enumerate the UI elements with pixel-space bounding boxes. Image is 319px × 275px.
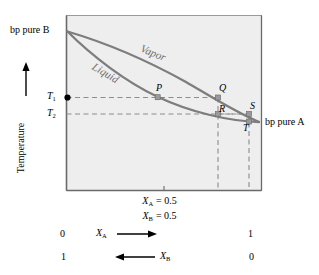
temperature-axis-arrow-icon bbox=[22, 62, 29, 96]
bp-pure-a-label: bp pure A bbox=[265, 117, 304, 127]
midpoint-xb-annotation: XB= 0.5 bbox=[0, 211, 319, 222]
xa-axis-symbol: XA bbox=[96, 228, 107, 239]
midpoint-xa-subscript: A bbox=[148, 200, 153, 207]
midpoint-xa-annotation: XA= 0.5 bbox=[0, 196, 319, 207]
midpoint-xb-subscript: B bbox=[149, 215, 153, 222]
y-tick-T1-subscript: 1 bbox=[53, 95, 56, 102]
phase-diagram-figure: bp pure B bp pure A Temperature Vapor Li… bbox=[0, 0, 319, 275]
xb-left-arrow-icon bbox=[115, 253, 155, 260]
xb-left-value: 1 bbox=[61, 252, 66, 262]
point-label-R: R bbox=[219, 104, 225, 114]
xb-subscript: B bbox=[166, 255, 170, 262]
bp-pure-b-label: bp pure B bbox=[10, 25, 49, 35]
xa-right-value: 1 bbox=[248, 229, 253, 239]
phase-diagram-svg bbox=[0, 0, 319, 275]
midpoint-xb-value: = 0.5 bbox=[156, 210, 177, 221]
xa-right-arrow-icon bbox=[117, 230, 157, 237]
y-axis-dot-T1 bbox=[64, 94, 70, 100]
xa-subscript: A bbox=[102, 232, 107, 239]
y-tick-T2-subscript: 2 bbox=[53, 112, 56, 119]
y-tick-label-T1: T1 bbox=[47, 91, 56, 102]
xb-right-value: 0 bbox=[249, 252, 254, 262]
midpoint-xa-value: = 0.5 bbox=[156, 195, 177, 206]
xb-axis-symbol: XB bbox=[160, 251, 170, 262]
y-axis-title: Temperature bbox=[16, 103, 26, 193]
point-marker-P bbox=[155, 95, 160, 100]
point-label-S: S bbox=[250, 101, 255, 111]
point-marker-S bbox=[247, 112, 252, 117]
point-label-T: T bbox=[243, 123, 249, 133]
y-tick-label-T2: T2 bbox=[47, 108, 56, 119]
point-marker-Q bbox=[216, 95, 221, 100]
xa-left-value: 0 bbox=[60, 229, 65, 239]
point-label-Q: Q bbox=[219, 83, 226, 93]
point-label-P: P bbox=[156, 83, 162, 93]
